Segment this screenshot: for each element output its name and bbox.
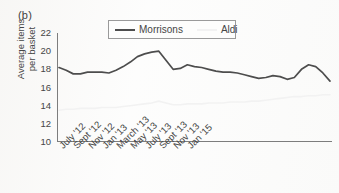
y-tick-label: 10	[35, 137, 51, 146]
y-tick-label: 20	[35, 46, 51, 55]
x-axis-tick-labels: July '12Sept '12Nov '12Jan '13March '13M…	[57, 143, 339, 193]
data-line-morrisons	[59, 51, 330, 81]
chart-figure: (b) Morrisons Aldi Average items per bas…	[0, 0, 339, 193]
y-axis-title-line-1: Average items	[15, 0, 26, 99]
y-tick-label: 12	[35, 119, 51, 128]
y-tick-label: 22	[35, 28, 51, 37]
y-axis-tick-labels: 10121416182022	[33, 33, 51, 142]
line-swatch-icon	[197, 29, 217, 31]
y-tick-label: 14	[35, 101, 51, 110]
line-swatch-icon	[115, 29, 135, 31]
data-line-aldi	[59, 95, 330, 110]
y-tick-label: 16	[35, 83, 51, 92]
y-tick-label: 18	[35, 64, 51, 73]
